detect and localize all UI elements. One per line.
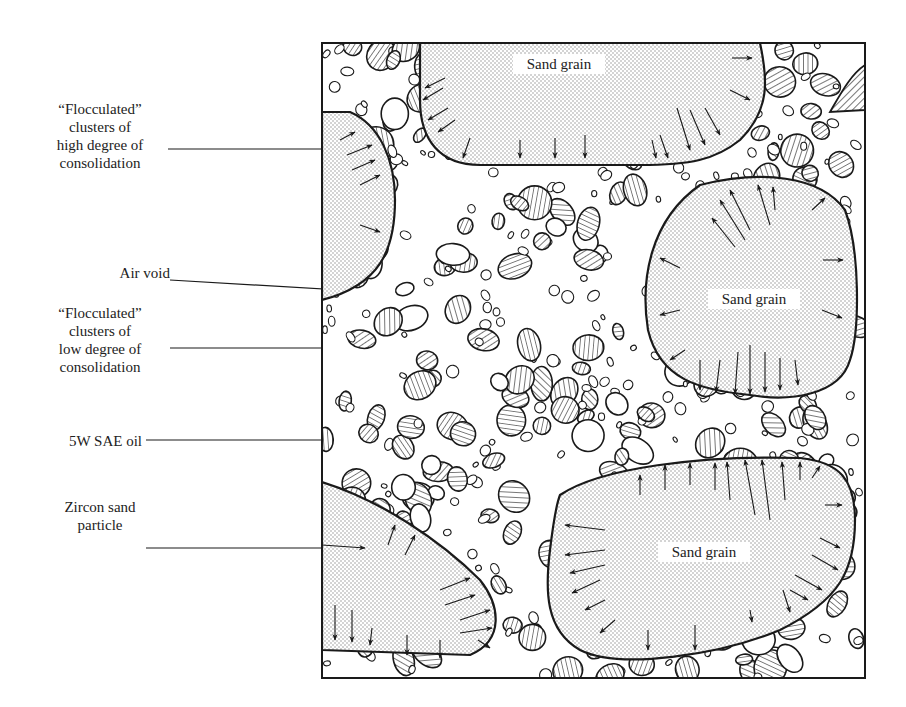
- pore-structure-diagram: Sand grain Sand grain Sand grain: [0, 0, 906, 707]
- grain-label-top: Sand grain: [527, 56, 592, 72]
- grain-label-right-middle: Sand grain: [722, 291, 787, 307]
- grain-label-bottom-right: Sand grain: [672, 544, 737, 560]
- sand-grain-right-middle: [646, 177, 857, 397]
